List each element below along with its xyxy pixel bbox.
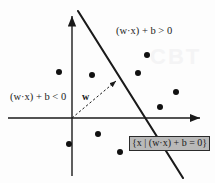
weight-vector-arrow [72,81,116,118]
data-point [157,104,163,110]
data-point [95,131,101,137]
weight-vector-label: w [82,92,89,102]
data-point [66,141,72,147]
svm-hyperplane-figure: CBT (w·x) + b > 0 (w·x) + b < 0 w {x | (… [0,0,215,183]
data-point [117,149,123,155]
data-point [56,69,62,75]
data-point [144,52,150,58]
data-point [135,70,141,76]
hyperplane-equation-label: {x | (w·x) + b = 0} [129,136,210,151]
negative-region-label: (w·x) + b < 0 [10,92,66,103]
data-point [173,89,179,95]
positive-region-label: (w·x) + b > 0 [116,26,172,37]
data-point [89,72,95,78]
